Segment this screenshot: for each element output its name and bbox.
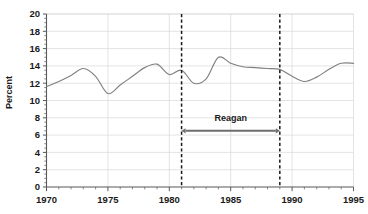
x-tick-label: 1975	[97, 194, 119, 205]
y-tick-label: 4	[35, 147, 41, 158]
y-tick-label: 2	[35, 164, 40, 175]
y-tick-label: 8	[35, 112, 40, 123]
span-label: Reagan	[214, 113, 247, 123]
y-tick-label: 12	[29, 78, 40, 89]
plot-background	[0, 0, 368, 214]
y-tick-label: 10	[29, 95, 40, 106]
y-tick-label: 16	[29, 43, 40, 54]
y-tick-label: 6	[35, 129, 40, 140]
y-tick-label: 18	[29, 26, 40, 37]
y-axis-title-text: Percent	[4, 76, 14, 109]
y-tick-label: 0	[35, 181, 40, 192]
x-tick-label: 1970	[36, 194, 57, 205]
line-chart: Reagan 024681012141618201970197519801985…	[0, 0, 368, 214]
x-tick-label: 1990	[282, 194, 303, 205]
x-tick-label: 1995	[343, 194, 365, 205]
x-tick-label: 1985	[220, 194, 242, 205]
y-axis-title: Percent	[4, 76, 14, 109]
x-tick-label: 1980	[159, 194, 180, 205]
y-tick-label: 14	[29, 60, 40, 71]
chart-container: Reagan 024681012141618201970197519801985…	[0, 0, 368, 214]
y-tick-label: 20	[29, 8, 40, 19]
